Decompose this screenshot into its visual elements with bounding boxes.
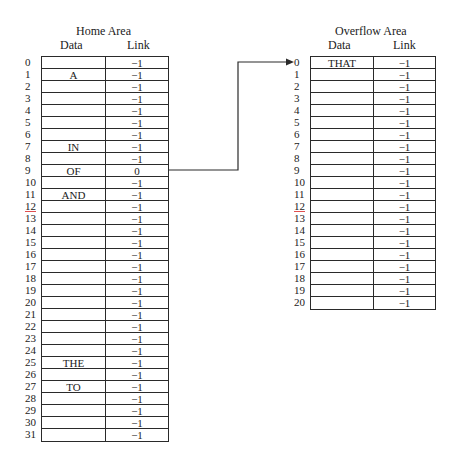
arrowhead-icon (286, 59, 294, 66)
link-arrow-line (169, 62, 286, 170)
link-arrow (0, 0, 459, 463)
